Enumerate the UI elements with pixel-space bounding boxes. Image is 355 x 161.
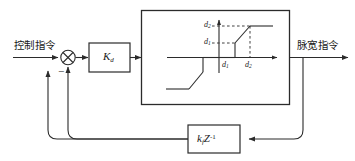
curve-left-slope xyxy=(189,72,203,89)
output-label: 脉宽指令 xyxy=(297,40,339,51)
feedback-right-path xyxy=(249,58,303,140)
y-lower-subscript: 1 xyxy=(208,40,211,46)
x-first-subscript: 1 xyxy=(226,63,229,69)
plot-x-tick-second-label: d2 xyxy=(245,61,252,70)
feedback-block-label: kfZ-1 xyxy=(197,133,216,146)
y-upper-subscript: 2 xyxy=(208,23,211,29)
negative-sign-label: − xyxy=(58,66,64,77)
gain-subscript: d xyxy=(110,56,114,64)
x-second-subscript: 2 xyxy=(249,63,252,69)
plot-x-tick-first-label: d1 xyxy=(222,61,229,70)
input-label: 控制指令 xyxy=(14,40,56,51)
diagram-canvas xyxy=(0,0,355,161)
curve-right-slope xyxy=(235,26,250,43)
feedback-exponent: -1 xyxy=(210,133,216,141)
block-diagram-figure: 控制指令 − Kd d2 d1 d1 d2 脉宽指令 kfZ-1 xyxy=(0,0,355,161)
feedback-riser-to-junction xyxy=(68,67,188,139)
gain-block-label: Kd xyxy=(103,51,114,64)
plot-y-tick-lower-label: d1 xyxy=(204,38,211,47)
plot-y-tick-upper-label: d2 xyxy=(204,21,211,30)
